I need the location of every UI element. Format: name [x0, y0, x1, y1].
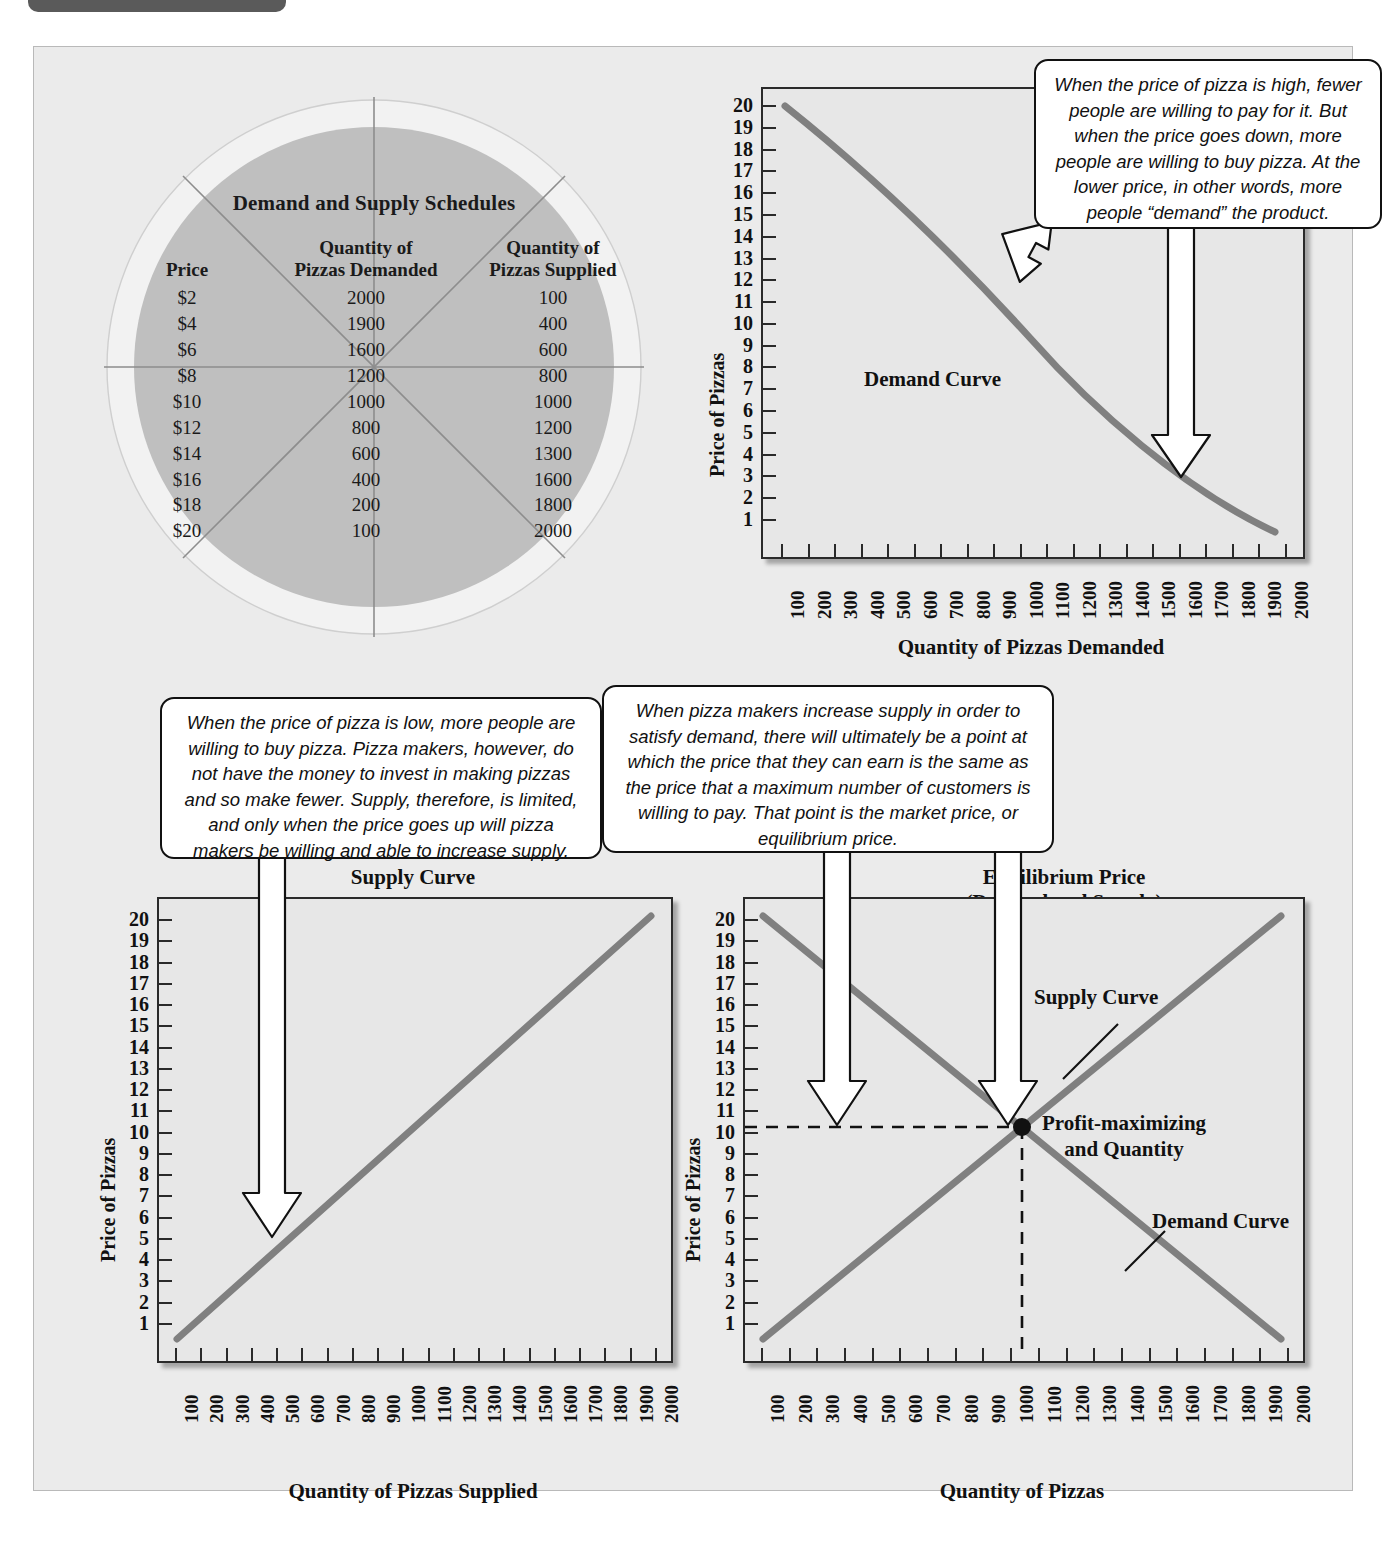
y-tick-label: 4 [701, 1249, 735, 1269]
y-tick-label: 12 [115, 1079, 149, 1099]
col-header-demanded-line1: Quantity of [267, 237, 465, 259]
cell-price: $6 [107, 338, 267, 364]
y-tick-label: 15 [701, 1015, 735, 1035]
x-tick-label: 200 [207, 1395, 226, 1424]
x-tick-mark [251, 1348, 253, 1361]
x-tick-mark [1285, 544, 1287, 557]
x-tick-mark [175, 1348, 177, 1361]
x-tick-label: 1400 [1133, 581, 1152, 619]
x-tick-mark [1149, 1348, 1151, 1361]
x-tick-mark [503, 1348, 505, 1361]
y-tick-mark [159, 1089, 172, 1091]
x-tick-mark [226, 1348, 228, 1361]
cell-supplied: 400 [465, 312, 641, 338]
x-tick-label: 1700 [586, 1385, 605, 1423]
y-tick-mark [745, 1323, 758, 1325]
x-tick-label: 300 [823, 1395, 842, 1424]
x-tick-mark [982, 1348, 984, 1361]
x-tick-label: 1600 [1183, 1385, 1202, 1423]
y-tick-mark [159, 1195, 172, 1197]
supply-callout: When the price of pizza is low, more peo… [160, 697, 602, 859]
x-tick-label: 1100 [1045, 1386, 1064, 1423]
y-tick-label: 19 [719, 117, 753, 137]
x-tick-mark [955, 1348, 957, 1361]
x-tick-label: 1700 [1211, 1385, 1230, 1423]
y-tick-mark [763, 258, 776, 260]
x-tick-label: 1700 [1212, 581, 1231, 619]
cell-demanded: 100 [267, 519, 465, 545]
y-tick-label: 3 [719, 465, 753, 485]
x-tick-label: 2000 [1294, 1385, 1313, 1423]
y-tick-mark [763, 127, 776, 129]
y-tick-mark [159, 1280, 172, 1282]
x-tick-mark [1232, 1348, 1234, 1361]
x-tick-mark [529, 1348, 531, 1361]
y-tick-mark [745, 1110, 758, 1112]
x-tick-mark [327, 1348, 329, 1361]
x-tick-mark [478, 1348, 480, 1361]
y-tick-mark [763, 149, 776, 151]
cell-demanded: 600 [267, 441, 465, 467]
cell-price: $8 [107, 363, 267, 389]
y-tick-mark [763, 301, 776, 303]
x-tick-mark [402, 1348, 404, 1361]
table-row: $1010001000 [107, 389, 641, 415]
x-tick-label: 1200 [460, 1385, 479, 1423]
cell-supplied: 800 [465, 363, 641, 389]
y-tick-mark [763, 454, 776, 456]
x-tick-label: 900 [1000, 591, 1019, 620]
y-tick-mark [159, 1110, 172, 1112]
y-tick-mark [159, 919, 172, 921]
x-tick-mark [200, 1348, 202, 1361]
y-tick-mark [763, 497, 776, 499]
x-tick-label: 1500 [1156, 1385, 1175, 1423]
y-tick-mark [745, 1025, 758, 1027]
x-tick-label: 1300 [1100, 1385, 1119, 1423]
col-header-supplied-line1: Quantity of [465, 237, 641, 259]
x-tick-label: 1000 [1027, 581, 1046, 619]
x-tick-label: 200 [796, 1395, 815, 1424]
x-tick-mark [887, 544, 889, 557]
x-tick-label: 1500 [1159, 581, 1178, 619]
y-tick-mark [763, 345, 776, 347]
x-tick-label: 1400 [1128, 1385, 1147, 1423]
y-tick-mark [763, 214, 776, 216]
y-tick-mark [159, 1047, 172, 1049]
cell-price: $16 [107, 467, 267, 493]
x-tick-mark [1152, 544, 1154, 557]
x-tick-label: 900 [384, 1395, 403, 1424]
equilibrium-callout: When pizza makers increase supply in ord… [602, 685, 1054, 853]
y-tick-label: 17 [701, 973, 735, 993]
cell-price: $2 [107, 286, 267, 312]
y-tick-mark [745, 1068, 758, 1070]
x-tick-label: 1200 [1073, 1385, 1092, 1423]
y-tick-mark [745, 1174, 758, 1176]
y-tick-label: 3 [115, 1270, 149, 1290]
x-tick-mark [1204, 1348, 1206, 1361]
x-tick-mark [1232, 544, 1234, 557]
y-tick-mark [745, 1238, 758, 1240]
x-tick-label: 1000 [409, 1385, 428, 1423]
x-tick-label: 300 [841, 591, 860, 620]
x-tick-mark [301, 1348, 303, 1361]
y-tick-mark [745, 919, 758, 921]
x-tick-label: 500 [283, 1395, 302, 1424]
y-tick-label: 16 [701, 994, 735, 1014]
cell-supplied: 600 [465, 338, 641, 364]
y-tick-label: 18 [719, 139, 753, 159]
x-tick-label: 1800 [1239, 1385, 1258, 1423]
table-row: $81200800 [107, 363, 641, 389]
y-tick-label: 11 [701, 1100, 735, 1120]
cell-demanded: 400 [267, 467, 465, 493]
x-tick-mark [834, 544, 836, 557]
y-tick-label: 13 [115, 1058, 149, 1078]
x-tick-mark [554, 1348, 556, 1361]
profit-point-line2: and Quantity [1042, 1137, 1206, 1163]
x-tick-mark [816, 1348, 818, 1361]
x-tick-label: 300 [233, 1395, 252, 1424]
col-header-supplied-line2: Pizzas Supplied [465, 259, 641, 281]
y-tick-label: 19 [701, 930, 735, 950]
cell-demanded: 1900 [267, 312, 465, 338]
x-tick-label: 500 [879, 1395, 898, 1424]
y-tick-label: 2 [701, 1292, 735, 1312]
